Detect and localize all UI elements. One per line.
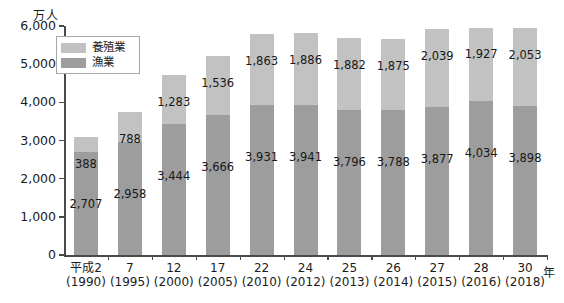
chart-legend: 養殖業 漁業	[56, 36, 140, 74]
legend-item-fishery: 漁業	[61, 55, 135, 70]
bar-segment-fishery[interactable]	[381, 110, 405, 255]
bar-value-label-fishery: 3,941	[284, 150, 328, 164]
bar-value-label-aquaculture: 1,882	[327, 58, 371, 72]
bar-segment-aquaculture[interactable]	[513, 28, 537, 106]
bar-value-label-fishery: 4,034	[459, 146, 503, 160]
bar-segment-aquaculture[interactable]	[74, 137, 98, 152]
bar-value-label-aquaculture: 1,886	[284, 53, 328, 67]
bar-value-label-fishery: 3,877	[415, 152, 459, 166]
bar-group[interactable]	[513, 28, 537, 255]
bar-segment-fishery[interactable]	[469, 101, 493, 255]
y-axis-tick-label: 4,000	[0, 94, 56, 109]
bar-segment-fishery[interactable]	[162, 124, 186, 255]
x-axis-tick	[240, 256, 241, 260]
legend-swatch-fishery-icon	[61, 58, 86, 68]
bar-value-label-aquaculture: 1,927	[459, 47, 503, 61]
legend-label-fishery: 漁業	[92, 57, 114, 69]
x-axis-tick	[371, 256, 372, 260]
bar-value-label-aquaculture: 1,283	[152, 95, 196, 109]
x-axis-tick	[415, 256, 416, 260]
y-axis-tick-label: 0	[0, 247, 56, 262]
bar-value-label-aquaculture: 2,053	[503, 48, 547, 62]
bar-value-label-fishery: 3,931	[240, 150, 284, 164]
y-axis-tick-label: 6,000	[0, 18, 56, 33]
bar-segment-aquaculture[interactable]	[469, 28, 493, 102]
bar-group[interactable]	[469, 28, 493, 256]
bar-segment-aquaculture[interactable]	[250, 34, 274, 105]
bar-value-label-aquaculture: 1,536	[196, 76, 240, 90]
x-axis-tick	[152, 256, 153, 260]
bar-segment-fishery[interactable]	[206, 115, 230, 255]
bar-segment-aquaculture[interactable]	[381, 39, 405, 111]
legend-swatch-aquaculture-icon	[61, 43, 86, 53]
y-axis-tick-label: 3,000	[0, 133, 56, 148]
bar-value-label-fishery: 2,707	[64, 197, 108, 211]
bar-value-label-fishery: 2,958	[108, 187, 152, 201]
bar-value-label-aquaculture: 1,875	[371, 59, 415, 73]
bar-value-label-fishery: 3,796	[327, 155, 371, 169]
x-axis-tick	[196, 256, 197, 260]
bar-segment-aquaculture[interactable]	[425, 29, 449, 107]
y-axis-tick-label: 5,000	[0, 56, 56, 71]
bar-segment-fishery[interactable]	[425, 107, 449, 255]
legend-label-aquaculture: 養殖業	[92, 42, 125, 54]
bar-value-label-aquaculture: 2,039	[415, 49, 459, 63]
bar-segment-fishery[interactable]	[250, 105, 274, 255]
bar-value-label-fishery: 3,444	[152, 169, 196, 183]
y-axis-tick-label: 1,000	[0, 209, 56, 224]
x-axis-tick	[284, 256, 285, 260]
x-axis-tick	[108, 256, 109, 260]
bar-segment-aquaculture[interactable]	[337, 38, 361, 110]
bar-value-label-aquaculture: 1,863	[240, 54, 284, 68]
bar-value-label-fishery: 3,666	[196, 160, 240, 174]
bar-value-label-fishery: 3,898	[503, 151, 547, 165]
x-axis-tick	[547, 256, 548, 260]
x-axis-tick	[503, 256, 504, 260]
stacked-bar-chart: 万人 01,0002,0003,0004,0005,0006,000 2,707…	[0, 0, 564, 303]
bar-value-label-aquaculture: 388	[64, 157, 108, 171]
x-axis-unit-label: 年	[543, 263, 555, 280]
bar-value-label-aquaculture: 788	[108, 132, 152, 146]
bar-segment-fishery[interactable]	[294, 105, 318, 255]
x-axis-tick	[327, 256, 328, 260]
y-axis-tick-label: 2,000	[0, 171, 56, 186]
legend-item-aquaculture: 養殖業	[61, 40, 135, 55]
bar-value-label-fishery: 3,788	[371, 155, 415, 169]
bar-segment-fishery[interactable]	[337, 110, 361, 255]
x-axis-tick	[459, 256, 460, 260]
bar-segment-fishery[interactable]	[513, 106, 537, 255]
bar-segment-aquaculture[interactable]	[294, 33, 318, 105]
x-axis-line	[64, 255, 548, 257]
